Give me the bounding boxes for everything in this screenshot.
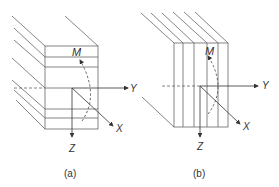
x-axis-a [72, 88, 113, 126]
caption-b: (b) [193, 168, 205, 179]
x-axis-label-a: X [115, 123, 123, 134]
moment-label-b: M [205, 45, 215, 57]
panel-a [12, 16, 128, 137]
z-axis-label-a: Z [68, 143, 76, 154]
front-face-a [45, 46, 98, 129]
front-face-b [174, 43, 228, 127]
moment-label-a: M [72, 46, 82, 58]
laminate-diagram: M Y X Z (a) M Y X Z (b) [0, 0, 279, 187]
caption-a: (a) [64, 168, 76, 179]
y-axis-label-a: Y [130, 83, 138, 94]
moment-arc-b [208, 56, 218, 114]
x-axis-b [200, 86, 240, 124]
diagram-canvas: M Y X Z (a) M Y X Z (b) [0, 0, 279, 187]
panel-b [141, 12, 258, 137]
x-axis-label-b: X [242, 121, 250, 132]
z-axis-label-b: Z [196, 141, 204, 152]
moment-arc-a [80, 60, 91, 121]
y-axis-label-b: Y [262, 80, 270, 91]
